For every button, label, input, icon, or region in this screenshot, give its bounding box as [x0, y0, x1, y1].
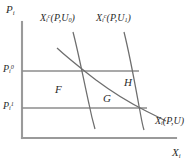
region-label-g: G [103, 93, 111, 104]
demand-curve-figure: Pi Xi Pi0 Pi1 Xic(P,U0) Xic(P,U1) Xi(P,U… [0, 0, 194, 165]
region-label-f: F [55, 84, 62, 95]
y-axis-label: Pi [6, 4, 15, 16]
curve-label-marshallian: Xi(P,U) [155, 116, 184, 127]
region-label-h: H [124, 77, 132, 88]
figure-canvas [0, 0, 194, 165]
curve-label-hicksian-u1: Xic(P,U1) [96, 13, 131, 24]
marshallian-curve [57, 48, 166, 121]
y-tick-label-p1: Pi1 [3, 101, 14, 112]
curve-label-hicksian-u0: Xic(P,U0) [40, 13, 75, 24]
x-axis-label: Xi [172, 147, 181, 159]
hicksian-curve-u0 [73, 32, 95, 129]
y-tick-label-p0: Pi0 [3, 64, 14, 75]
